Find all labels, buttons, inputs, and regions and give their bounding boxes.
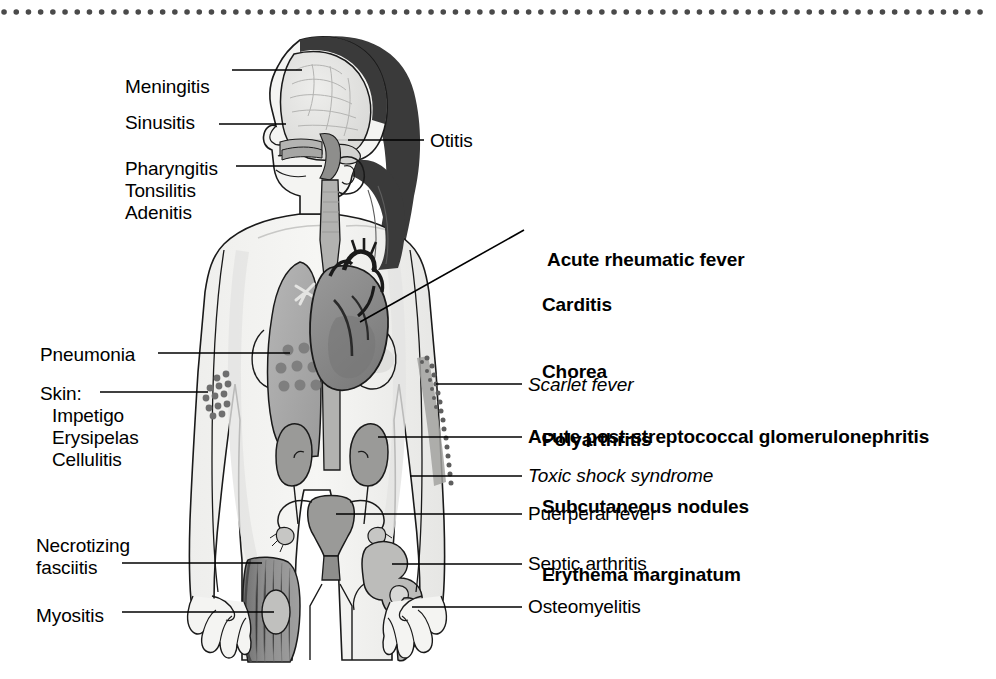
- rheumatic-heading: Acute rheumatic fever: [547, 249, 744, 270]
- label-erysipelas: Erysipelas: [52, 427, 139, 449]
- label-cellulitis: Cellulitis: [52, 449, 122, 471]
- label-otitis: Otitis: [430, 130, 473, 152]
- label-glomerulonephritis: Acute post-streptococcal glomerulonephri…: [528, 426, 929, 448]
- cervix-vagina: [322, 556, 340, 580]
- body-figure: [188, 36, 454, 662]
- label-scarlet-fever: Scarlet fever: [528, 374, 633, 396]
- label-sinusitis: Sinusitis: [125, 112, 195, 134]
- label-puerperal-fever: Puerperal fever: [528, 503, 656, 525]
- trachea: [320, 180, 340, 276]
- ovary-left: [276, 527, 294, 544]
- label-necrotizing: Necrotizing: [36, 535, 130, 557]
- hand-left: [188, 596, 251, 658]
- label-meningitis: Meningitis: [125, 76, 210, 98]
- rheumatic-item-carditis: Carditis: [527, 294, 749, 317]
- label-adenitis: Adenitis: [125, 202, 192, 224]
- label-toxic-shock-syndrome: Toxic shock syndrome: [528, 465, 713, 487]
- label-septic-arthritis: Septic arthritis: [528, 553, 647, 575]
- streptococcal-infection-figure: Meningitis Sinusitis Pharyngitis Tonsili…: [0, 0, 996, 679]
- label-skin: Skin:: [40, 383, 82, 405]
- kidney-left: [276, 424, 312, 486]
- label-tonsilitis: Tonsilitis: [125, 180, 196, 202]
- label-osteomyelitis: Osteomyelitis: [528, 596, 641, 618]
- label-pneumonia: Pneumonia: [40, 344, 135, 366]
- anatomy-illustration: [0, 0, 996, 679]
- kidney-right: [350, 424, 388, 486]
- hand-right: [383, 596, 446, 658]
- label-myositis: Myositis: [36, 605, 104, 627]
- label-fasciitis: fasciitis: [36, 557, 97, 579]
- label-pharyngitis: Pharyngitis: [125, 158, 218, 180]
- label-impetigo: Impetigo: [52, 405, 124, 427]
